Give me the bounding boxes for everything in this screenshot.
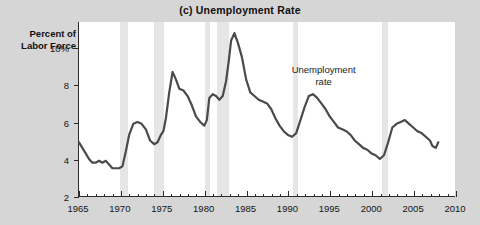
x-tick-mark-minor [180, 194, 181, 198]
x-tick-label: 1975 [151, 203, 172, 214]
series-line-unemployment-rate [79, 22, 455, 196]
y-axis-title-line-1: Percent of [6, 28, 76, 40]
x-tick-mark-major [247, 191, 248, 197]
x-tick-mark-minor [138, 194, 139, 198]
x-tick-mark-minor [422, 194, 423, 198]
x-tick-mark-major [330, 191, 331, 197]
x-tick-mark-minor [355, 194, 356, 198]
x-tick-mark-minor [104, 194, 105, 198]
x-tick-mark-minor [263, 194, 264, 198]
y-tick-label: 2 [0, 192, 69, 203]
y-tick-mark [74, 160, 79, 161]
x-tick-mark-minor [339, 194, 340, 198]
x-tick-mark-minor [188, 194, 189, 198]
y-tick-mark [74, 197, 79, 198]
x-tick-label: 2005 [403, 203, 424, 214]
x-tick-mark-major [79, 191, 80, 197]
x-tick-mark-minor [297, 194, 298, 198]
unemployment-rate-chart-figure: (c) Unemployment Rate Percent of Labor F… [0, 0, 480, 225]
y-tick-mark [74, 123, 79, 124]
annotation-line-2: rate [292, 75, 356, 87]
y-tick-mark [74, 85, 79, 86]
x-tick-mark-minor [129, 194, 130, 198]
x-tick-label: 1985 [235, 203, 256, 214]
x-tick-mark-minor [314, 194, 315, 198]
x-tick-label: 1980 [193, 203, 214, 214]
x-tick-mark-minor [389, 194, 390, 198]
x-tick-mark-minor [397, 194, 398, 198]
x-tick-mark-minor [146, 194, 147, 198]
x-tick-label: 1965 [67, 203, 88, 214]
y-tick-label: 4 [0, 154, 69, 165]
x-tick-mark-minor [113, 194, 114, 198]
x-tick-label: 2000 [361, 203, 382, 214]
x-tick-mark-minor [431, 194, 432, 198]
series-annotation-label: Unemploymentrate [292, 64, 356, 87]
y-tick-mark [74, 48, 79, 49]
y-tick-label: 6 [0, 117, 69, 128]
x-tick-label: 1990 [277, 203, 298, 214]
x-tick-mark-minor [381, 194, 382, 198]
plot-area: Unemploymentrate [78, 22, 455, 197]
y-tick-label: 8 [0, 80, 69, 91]
chart-title: (c) Unemployment Rate [0, 4, 480, 16]
x-tick-mark-minor [213, 194, 214, 198]
x-tick-mark-minor [272, 194, 273, 198]
x-tick-mark-minor [230, 194, 231, 198]
x-tick-mark-minor [364, 194, 365, 198]
x-tick-label: 2010 [444, 203, 465, 214]
x-tick-mark-minor [305, 194, 306, 198]
x-tick-mark-major [121, 191, 122, 197]
x-tick-mark-minor [439, 194, 440, 198]
x-tick-mark-minor [347, 194, 348, 198]
x-tick-mark-minor [96, 194, 97, 198]
x-tick-mark-major [372, 191, 373, 197]
x-tick-mark-major [288, 191, 289, 197]
x-tick-mark-minor [87, 194, 88, 198]
x-tick-label: 1970 [109, 203, 130, 214]
x-tick-mark-minor [238, 194, 239, 198]
x-tick-mark-major [163, 191, 164, 197]
annotation-line-1: Unemployment [292, 64, 356, 76]
x-tick-mark-major [456, 191, 457, 197]
x-tick-mark-minor [255, 194, 256, 198]
x-tick-mark-minor [154, 194, 155, 198]
x-tick-mark-minor [221, 194, 222, 198]
x-tick-mark-minor [171, 194, 172, 198]
x-tick-mark-major [414, 191, 415, 197]
x-tick-mark-major [205, 191, 206, 197]
x-tick-mark-minor [406, 194, 407, 198]
x-tick-mark-minor [280, 194, 281, 198]
x-tick-mark-minor [322, 194, 323, 198]
y-tick-label: 10% [0, 43, 69, 54]
x-tick-mark-minor [196, 194, 197, 198]
x-tick-label: 1995 [319, 203, 340, 214]
x-tick-mark-minor [448, 194, 449, 198]
